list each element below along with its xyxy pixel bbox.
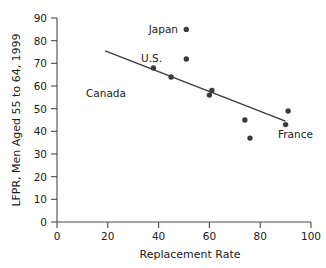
y-tick-label-70: 70 xyxy=(34,57,47,69)
trendline xyxy=(105,51,285,121)
y-axis-tick-labels: 90 80 70 60 50 40 30 20 10 0 xyxy=(34,12,47,228)
data-point-france xyxy=(283,122,288,127)
data-point xyxy=(247,135,252,140)
y-tick-label-50: 50 xyxy=(34,103,47,115)
data-points xyxy=(151,27,291,141)
data-point xyxy=(209,88,214,93)
x-tick-label-20: 20 xyxy=(101,230,114,242)
y-tick-label-60: 60 xyxy=(34,80,47,92)
scatter-chart: 90 80 70 60 50 40 30 20 10 0 0 20 40 60 … xyxy=(0,0,326,268)
annotation-us: U.S. xyxy=(141,52,162,64)
data-point xyxy=(184,56,189,61)
point-annotations: Japan U.S. Canada France xyxy=(86,23,313,140)
y-tick-label-20: 20 xyxy=(34,171,47,183)
annotation-japan: Japan xyxy=(148,23,178,35)
y-tick-label-0: 0 xyxy=(40,216,47,228)
y-tick-label-10: 10 xyxy=(34,193,47,205)
data-point xyxy=(168,74,173,79)
data-point xyxy=(151,65,156,70)
x-tick-label-100: 100 xyxy=(301,230,321,242)
y-tick-label-40: 40 xyxy=(34,125,47,137)
axis-lines xyxy=(57,18,311,222)
x-tick-label-60: 60 xyxy=(203,230,216,242)
y-axis-title: LFPR, Men Aged 55 to 64, 1999 xyxy=(10,33,23,206)
x-axis-tick-labels: 0 20 40 60 80 100 xyxy=(54,230,321,242)
y-tick-label-80: 80 xyxy=(34,35,47,47)
data-point xyxy=(242,117,247,122)
annotation-canada: Canada xyxy=(86,87,126,99)
x-axis-ticks xyxy=(57,222,311,228)
y-axis-ticks xyxy=(51,18,57,222)
data-point xyxy=(285,108,290,113)
x-tick-label-0: 0 xyxy=(54,230,61,242)
data-point xyxy=(207,92,212,97)
y-tick-label-30: 30 xyxy=(34,148,47,160)
chart-svg: 90 80 70 60 50 40 30 20 10 0 0 20 40 60 … xyxy=(0,0,326,268)
annotation-france: France xyxy=(278,128,313,140)
y-tick-label-90: 90 xyxy=(34,12,47,24)
data-point-japan xyxy=(184,27,189,32)
x-tick-label-80: 80 xyxy=(254,230,267,242)
x-tick-label-40: 40 xyxy=(152,230,165,242)
x-axis-title: Replacement Rate xyxy=(140,248,241,261)
